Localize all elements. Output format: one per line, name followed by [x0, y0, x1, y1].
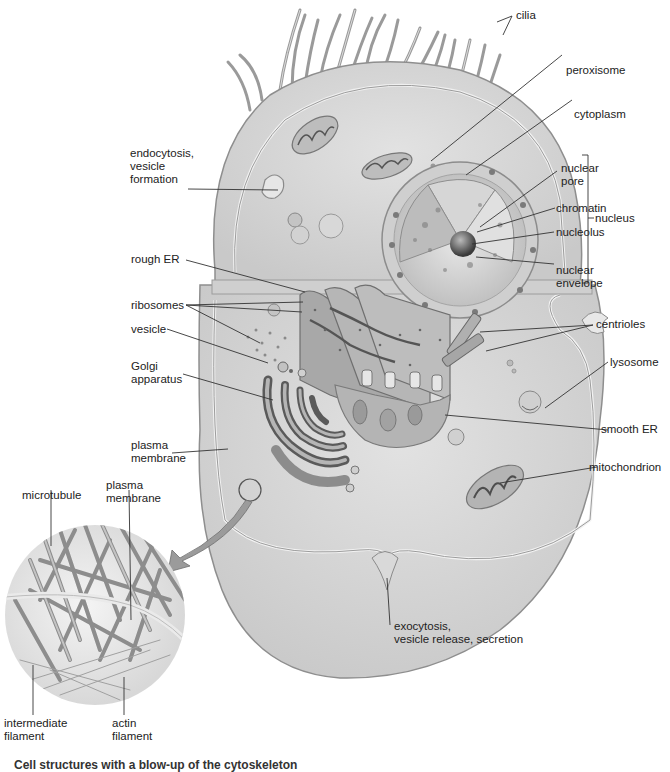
label-ribosomes: ribosomes [131, 299, 184, 312]
label-nucleus: nucleus [595, 212, 635, 225]
label-vesicle: vesicle [131, 323, 166, 336]
label-golgi-apparatus: Golgi apparatus [131, 360, 182, 386]
figure-caption: Cell structures with a blow-up of the cy… [14, 758, 297, 772]
label-endocytosis: endocytosis, vesicle formation [130, 147, 194, 186]
label-smooth-er: smooth ER [601, 423, 658, 436]
label-cilia: cilia [516, 9, 536, 22]
lysosome [519, 391, 541, 413]
label-inset-plasma-membrane: plasma membrane [106, 479, 161, 505]
cytoskeleton-inset [5, 520, 185, 705]
label-nucleolus: nucleolus [556, 226, 605, 239]
label-intermediate-filament: intermediate filament [4, 717, 67, 743]
label-nuclear-pore: nuclear pore [561, 162, 599, 188]
label-microtubule: microtubule [22, 489, 81, 502]
label-centrioles: centrioles [596, 318, 645, 331]
label-cytoplasm: cytoplasm [574, 108, 626, 121]
label-rough-er: rough ER [131, 253, 180, 266]
label-lysosome: lysosome [610, 356, 659, 369]
label-actin-filament: actin filament [112, 717, 152, 743]
label-peroxisome: peroxisome [566, 64, 625, 77]
label-exocytosis: exocytosis, vesicle release, secretion [394, 620, 523, 646]
label-plasma-membrane: plasma membrane [131, 439, 186, 465]
label-nuclear-envelope: nuclear envelope [556, 264, 603, 290]
nucleus [382, 162, 538, 318]
label-mitochondrion: mitochondrion [589, 461, 661, 474]
